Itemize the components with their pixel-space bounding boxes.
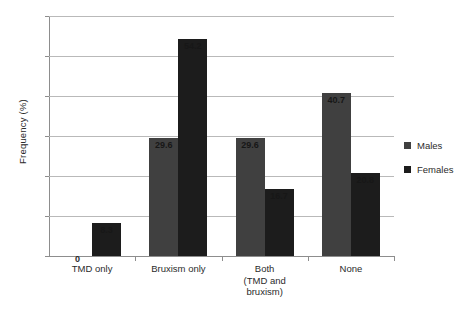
bar-value-label: 54.2 xyxy=(184,41,202,51)
x-tick-mark xyxy=(222,256,223,261)
category-label-line: None xyxy=(308,263,394,275)
bar-females-3: 20.8 xyxy=(351,173,380,256)
legend-swatch-icon xyxy=(404,142,411,149)
bar-value-label: 29.6 xyxy=(241,140,259,150)
bar-value-label: 29.6 xyxy=(155,140,173,150)
bar-females-2: 16.7 xyxy=(265,189,294,256)
category-label-line: (TMD and xyxy=(222,275,308,287)
plot-area: 08.329.654.229.616.740.720.8 xyxy=(49,16,394,256)
bar-group: 29.616.7 xyxy=(222,16,308,256)
y-axis-title: Frequency (%) xyxy=(17,72,28,192)
x-tick-mark xyxy=(308,256,309,261)
bar-value-label: 16.7 xyxy=(270,191,288,201)
bar-males-1: 29.6 xyxy=(149,138,178,256)
category-label-line: bruxism) xyxy=(222,286,308,298)
category-label: Bruxism only xyxy=(135,263,221,275)
bar-group: 08.3 xyxy=(49,16,135,256)
bar-males-2: 29.6 xyxy=(236,138,265,256)
bar-chart: Frequency (%) 6050403020100 08.329.654.2… xyxy=(0,0,476,316)
category-label-line: Both xyxy=(222,263,308,275)
bar-group: 29.654.2 xyxy=(135,16,221,256)
bar-females-0: 8.3 xyxy=(92,223,121,256)
legend-swatch-icon xyxy=(404,166,411,173)
legend-label: Males xyxy=(417,140,442,151)
category-label: Both(TMD andbruxism) xyxy=(222,263,308,298)
bar-value-label: 40.7 xyxy=(328,95,346,105)
bar-females-1: 54.2 xyxy=(178,39,207,256)
legend: MalesFemales xyxy=(404,140,453,188)
bar-value-label: 20.8 xyxy=(357,175,375,185)
bar-value-label: 8.3 xyxy=(100,225,113,235)
x-tick-mark xyxy=(394,256,395,261)
legend-item-males[interactable]: Males xyxy=(404,140,453,151)
legend-label: Females xyxy=(417,164,453,175)
category-label: TMD only xyxy=(49,263,135,275)
legend-item-females[interactable]: Females xyxy=(404,164,453,175)
bar-group: 40.720.8 xyxy=(308,16,394,256)
category-label-line: TMD only xyxy=(49,263,135,275)
bar-males-3: 40.7 xyxy=(322,93,351,256)
category-label-line: Bruxism only xyxy=(135,263,221,275)
x-tick-mark xyxy=(135,256,136,261)
category-label: None xyxy=(308,263,394,275)
